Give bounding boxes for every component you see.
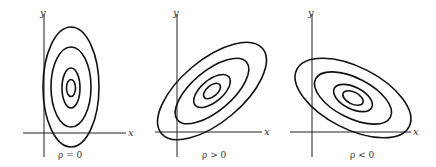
contour-figure: y x ρ = 0 y x ρ > 0 y x	[0, 0, 436, 167]
contour-ellipses	[142, 25, 283, 157]
contour-outer	[142, 25, 283, 157]
panel-caption: ρ > 0	[202, 150, 227, 160]
x-axis-label: x	[128, 127, 134, 138]
y-axis-label: y	[172, 7, 179, 18]
panel-caption: ρ = 0	[58, 150, 83, 160]
y-axis-label: y	[39, 7, 46, 18]
contour-ellipses	[283, 42, 423, 154]
contour-inner	[67, 80, 76, 97]
panel-rho-positive: y x ρ > 0	[142, 7, 283, 160]
contour-2	[165, 47, 260, 135]
panel-rho-zero: y x ρ = 0	[23, 7, 134, 160]
contour-ellipses	[43, 27, 99, 147]
contour-2	[51, 47, 91, 127]
contour-3	[62, 68, 80, 108]
x-axis-label: x	[413, 126, 419, 137]
contour-3	[188, 68, 236, 113]
contour-outer	[283, 42, 423, 154]
panel-rho-negative: y x ρ < 0	[283, 7, 423, 160]
x-axis-label: x	[264, 126, 270, 137]
contour-2	[306, 61, 399, 135]
panel-caption: ρ < 0	[350, 150, 375, 160]
y-axis-label: y	[307, 7, 314, 18]
